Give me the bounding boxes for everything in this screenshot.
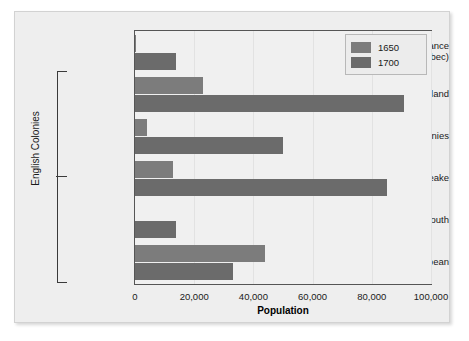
bar-1700-4 (135, 221, 176, 238)
bar-1650-0 (135, 35, 136, 52)
bar-1650-1 (135, 77, 203, 94)
x-tick-label: 100,000 (414, 291, 448, 302)
legend-item: 1650 (351, 40, 421, 54)
bar-1700-0 (135, 53, 176, 70)
chart-figure: English Colonies New France(Quebec)New E… (14, 11, 450, 323)
legend-item: 1700 (351, 55, 421, 69)
x-tick-label: 80,000 (357, 291, 386, 302)
bar-1650-5 (135, 245, 265, 262)
legend-label-1700: 1700 (378, 57, 399, 68)
x-tick-label: 60,000 (298, 291, 327, 302)
legend-label-1650: 1650 (378, 42, 399, 53)
bar-1700-1 (135, 95, 404, 112)
bar-1700-5 (135, 263, 233, 280)
legend: 1650 1700 (345, 34, 427, 75)
english-colonies-bracket-tick (56, 176, 67, 177)
legend-swatch-1700-icon (351, 57, 371, 68)
bar-1650-3 (135, 161, 173, 178)
gridline (431, 31, 432, 284)
x-tick-label: 20,000 (180, 291, 209, 302)
bar-1700-3 (135, 179, 387, 196)
legend-swatch-1650-icon (351, 42, 371, 53)
gridline (313, 31, 314, 284)
x-axis-title: Population (134, 305, 432, 316)
x-tick-label: 0 (132, 291, 137, 302)
bar-1650-2 (135, 119, 147, 136)
x-tick-label: 40,000 (239, 291, 268, 302)
bar-1700-2 (135, 137, 283, 154)
english-colonies-label: English Colonies (30, 84, 41, 214)
